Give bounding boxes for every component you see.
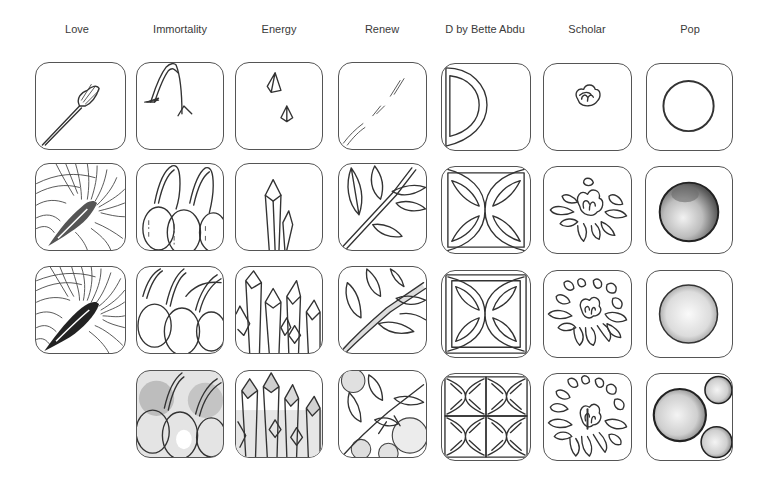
tile-energy-step-3 xyxy=(235,266,323,354)
chrysanthemum-small-icon xyxy=(544,167,631,253)
tile-love-step-3 xyxy=(35,266,126,354)
circle-light-shaded-icon xyxy=(647,271,732,357)
d-grid-of-four-icon xyxy=(442,374,530,460)
tile-immortality-step-1 xyxy=(136,62,224,150)
tile-d-step-2 xyxy=(441,166,531,254)
d-four-petal-icon xyxy=(442,167,530,253)
crystal-shaded-icon xyxy=(236,371,322,457)
column-label-scholar: Scholar xyxy=(532,21,642,37)
tile-pop-step-3 xyxy=(646,270,733,358)
feather-plume-icon xyxy=(36,164,125,250)
bud-icon xyxy=(544,64,631,150)
tile-energy-step-2 xyxy=(235,163,323,251)
chrysanthemum-full-icon xyxy=(544,374,631,460)
feather-dense-icon xyxy=(36,267,125,353)
column-label-immortality: Immortality xyxy=(125,21,235,37)
tile-immortality-step-3 xyxy=(136,266,224,354)
branch-leaves-icon xyxy=(339,164,426,250)
feather-stem-icon xyxy=(36,63,125,149)
chrysanthemum-medium-icon xyxy=(544,271,631,357)
tile-love-step-1 xyxy=(35,62,126,150)
branch-berries-shaded-icon xyxy=(339,371,426,457)
cherries-shaded-icon xyxy=(137,371,223,457)
crystal-cluster-icon xyxy=(236,164,322,250)
tile-love-step-2 xyxy=(35,163,126,251)
tile-renew-step-4 xyxy=(338,370,427,458)
tile-renew-step-3 xyxy=(338,266,427,354)
tile-energy-step-4 xyxy=(235,370,323,458)
column-label-renew: Renew xyxy=(327,21,437,37)
tile-scholar-step-3 xyxy=(543,270,632,358)
column-label-love: Love xyxy=(22,21,132,37)
crystal-many-icon xyxy=(236,267,322,353)
tile-d-step-3 xyxy=(441,270,531,358)
tile-immortality-step-4 xyxy=(136,370,224,458)
tile-pop-step-4 xyxy=(646,373,733,461)
d-half-circle-icon xyxy=(442,64,530,150)
column-label-energy: Energy xyxy=(224,21,334,37)
column-label-pop: Pop xyxy=(635,21,745,37)
tile-pop-step-1 xyxy=(646,63,733,151)
tile-d-step-1 xyxy=(441,63,531,151)
crystal-tips-icon xyxy=(236,63,322,149)
three-bubbles-icon xyxy=(647,374,732,460)
circle-outline-icon xyxy=(647,64,732,150)
tile-renew-step-2 xyxy=(338,163,427,251)
cherries-outlined-icon xyxy=(137,164,223,250)
branch-dense-icon xyxy=(339,267,426,353)
tile-pop-step-2 xyxy=(645,166,733,254)
cherry-stems-icon xyxy=(137,63,223,149)
tile-scholar-step-4 xyxy=(543,373,632,461)
tile-immortality-step-2 xyxy=(136,163,224,251)
tile-d-step-4 xyxy=(441,373,531,461)
tile-scholar-step-2 xyxy=(543,166,632,254)
diagonal-guide-icon xyxy=(339,63,426,149)
tile-scholar-step-1 xyxy=(543,63,632,151)
circle-dark-shaded-icon xyxy=(646,167,732,253)
column-label-d-by-bette-abdu: D by Bette Abdu xyxy=(430,21,540,37)
tile-renew-step-1 xyxy=(338,62,427,150)
tile-energy-step-1 xyxy=(235,62,323,150)
cherries-overlapping-icon xyxy=(137,267,223,353)
d-four-petal-refined-icon xyxy=(442,271,530,357)
